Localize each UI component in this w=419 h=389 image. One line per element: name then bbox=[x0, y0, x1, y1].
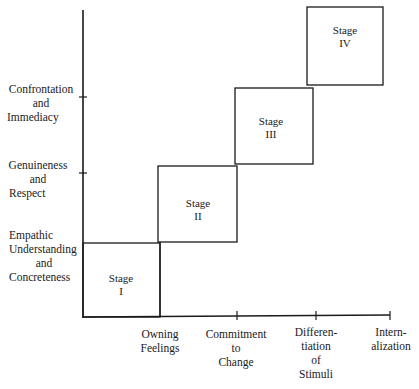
stage-4-label: Stage IV bbox=[315, 24, 375, 50]
y-label-genuineness: Genuineness and Respect bbox=[3, 158, 73, 200]
stage-2-label: Stage II bbox=[168, 197, 228, 223]
y-label-confrontation: Confrontation and Immediacy bbox=[3, 82, 79, 124]
stage-1-label: Stage I bbox=[91, 272, 151, 298]
stage-3-label: Stage III bbox=[241, 115, 301, 141]
x-label-differentiation: Differen- tiation of Stimuli bbox=[283, 325, 349, 381]
y-label-empathic: Empathic Understanding and Concreteness bbox=[6, 228, 82, 284]
x-label-commitment: Commitment to Change bbox=[197, 327, 275, 369]
x-label-owning-feelings: Owning Feelings bbox=[130, 327, 190, 355]
x-label-internalization: Intern- alization bbox=[364, 325, 418, 353]
